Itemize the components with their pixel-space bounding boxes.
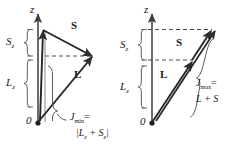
origin-label-right: 0 [140,116,146,127]
axis-label-z-right: z [144,4,148,15]
lz-sub-right: z [126,87,129,94]
result-label-jmin: Jmin= [70,112,90,124]
jmin-sub: min [74,117,84,124]
vector-label-s-right: S [176,37,182,48]
brace-label-sz-left: Sz [6,36,14,50]
result-expr-jmax: L + S [196,94,218,104]
brace-label-sz-right: Sz [120,39,128,53]
sz-sub-right: z [126,45,129,52]
brace-sz-left [24,30,30,56]
figure-canvas [0,0,241,145]
brace-label-lz-right: Lz [120,81,129,95]
sz-sub-left: z [12,42,15,49]
vector-label-s-left: S [71,20,77,31]
result-expr-jmin: |Lz + Sz| [76,128,109,140]
brace-lz-left [24,60,30,107]
brace-label-lz-left: Lz [6,77,15,91]
vector-l-right [153,62,192,121]
right-panel-graphics [138,14,215,126]
jmax-sub: max [200,83,211,90]
lz-sub-left: z [12,83,15,90]
jmin-equals: = [84,111,90,122]
vector-label-l-right: L [160,69,167,80]
brace-lz-right [138,66,144,108]
leader-jmin-left [58,114,67,120]
vector-coupling-figure: z 0 Sz Lz S L Jmin= |Lz + Sz| z 0 Sz Lz … [0,0,241,145]
jmin-expr-end: | [106,127,109,138]
vector-label-l-left: L [74,69,81,80]
origin-label-left: 0 [26,115,32,126]
result-label-jmax: Jmax= [196,78,217,90]
vector-s-left [43,30,92,56]
axis-label-z-left: z [30,4,34,15]
brace-jmin-left [48,66,58,121]
vector-j-left [40,31,43,121]
jmin-expr-mid: + S [87,127,104,138]
jmax-equals: = [211,77,217,88]
brace-sz-right [138,30,144,61]
left-panel-graphics [24,14,93,126]
